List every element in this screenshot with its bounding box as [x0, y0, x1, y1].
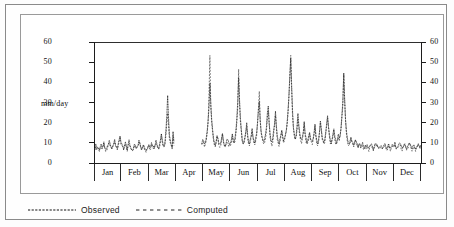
- y-tick-label-left: 10: [12, 139, 52, 147]
- y-tick-label-right: 50: [430, 58, 454, 66]
- chart-plot-frame: mm/day 00101020203030404050506060 JanFeb…: [20, 14, 444, 194]
- y-tick-right: [421, 42, 426, 43]
- legend-label-observed: Observed: [81, 205, 120, 215]
- series-line-computed: [202, 55, 421, 151]
- x-axis-month-aug: Aug: [285, 164, 312, 181]
- legend-line-computed-icon: [136, 207, 182, 213]
- figure-outer-border: mm/day 00101020203030404050506060 JanFeb…: [5, 4, 447, 220]
- x-axis-month-apr: Apr: [176, 164, 203, 181]
- y-tick-label-left: 40: [12, 78, 52, 86]
- x-axis-month-may: May: [203, 164, 230, 181]
- x-axis-month-jul: Jul: [258, 164, 285, 181]
- legend-item-computed: Computed: [136, 205, 228, 215]
- y-tick-label-right: 30: [430, 99, 454, 107]
- figure-page: mm/day 00101020203030404050506060 JanFeb…: [0, 0, 454, 227]
- y-tick-label-left: 30: [12, 99, 52, 107]
- x-axis-month-sep: Sep: [312, 164, 339, 181]
- y-tick-label-left: 50: [12, 58, 52, 66]
- series-plot-area: [94, 42, 421, 163]
- y-tick-label-right: 0: [430, 159, 454, 167]
- y-tick-right: [421, 142, 426, 143]
- y-tick-label-right: 10: [430, 139, 454, 147]
- series-line-observed: [202, 58, 421, 150]
- legend-label-computed: Computed: [187, 205, 228, 215]
- y-tick-label-right: 20: [430, 119, 454, 127]
- x-axis-month-jan: Jan: [94, 164, 121, 181]
- chart-legend: Observed Computed: [28, 201, 228, 219]
- legend-item-observed: Observed: [28, 205, 120, 215]
- y-tick-label-left: 0: [12, 159, 52, 167]
- legend-line-observed-icon: [28, 207, 76, 213]
- x-axis-month-feb: Feb: [121, 164, 148, 181]
- x-axis-month-band: JanFebMarAprMayJunJulAugSepOctNovDec: [94, 163, 421, 180]
- y-tick-right: [421, 102, 426, 103]
- y-tick-label-left: 20: [12, 119, 52, 127]
- y-tick-label-right: 60: [430, 38, 454, 46]
- x-axis-month-dec: Dec: [394, 164, 421, 181]
- y-tick-right: [421, 62, 426, 63]
- y-axis-right: [421, 42, 422, 164]
- y-tick-right: [421, 163, 426, 164]
- y-tick-right: [421, 122, 426, 123]
- y-tick-label-left: 60: [12, 38, 52, 46]
- x-axis-month-oct: Oct: [339, 164, 366, 181]
- y-tick-right: [421, 82, 426, 83]
- x-axis-month-nov: Nov: [367, 164, 394, 181]
- series-line-computed: [94, 113, 174, 152]
- y-tick-label-right: 40: [430, 78, 454, 86]
- x-axis-month-jun: Jun: [230, 164, 257, 181]
- x-axis-month-mar: Mar: [149, 164, 176, 181]
